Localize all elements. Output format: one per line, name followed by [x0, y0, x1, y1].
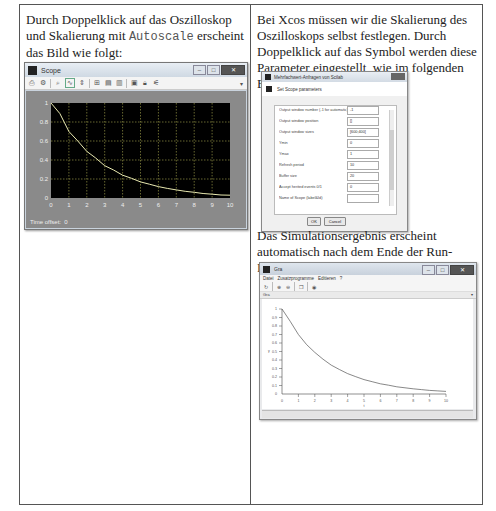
svg-text:0: 0	[45, 195, 49, 201]
herited-events-input[interactable]: 0	[347, 183, 379, 192]
ok-button[interactable]: OK	[307, 217, 321, 226]
left-paragraph: Durch Doppelklick auf das Oszilloskop un…	[26, 12, 246, 61]
params-icon[interactable]: ⚙	[39, 79, 47, 87]
svg-text:9: 9	[429, 399, 431, 403]
close-icon[interactable]: ✕	[221, 65, 245, 75]
dialog-header-text: Set Scope parameters	[277, 87, 322, 92]
field-row: Name of Scope (label&Id)	[279, 194, 387, 202]
graphic-window: Gra – □ ✕ Datei Zusatzprogramme Editiere…	[259, 262, 477, 420]
zoom-icon[interactable]: ⌕	[54, 79, 62, 87]
print-icon[interactable]: ⎙	[28, 79, 36, 87]
graphic-title: Gra	[274, 266, 282, 272]
maximize-icon[interactable]: □	[207, 65, 220, 75]
svg-text:4: 4	[347, 399, 349, 403]
graphic-menubar: Datei Zusatzprogramme Editieren ?	[260, 275, 476, 282]
toolbar-overflow-icon[interactable]: ▾	[240, 80, 243, 87]
window-icon[interactable]: ❐	[298, 284, 304, 290]
dialog-scrollbar[interactable]	[389, 110, 394, 206]
legend-icon[interactable]: ⚟	[152, 79, 160, 87]
svg-text:2: 2	[314, 399, 316, 403]
svg-text:3: 3	[103, 202, 107, 208]
dialog-header: Set Scope parameters	[262, 82, 407, 96]
ymax-input[interactable]: 1	[347, 150, 379, 159]
window-position-input[interactable]: []	[347, 117, 379, 126]
svg-text:3: 3	[330, 399, 332, 403]
window-number-input[interactable]: -1	[347, 106, 379, 115]
svg-text:4: 4	[121, 202, 125, 208]
scope-titlebar[interactable]: Scope – □ ✕	[25, 63, 247, 77]
save-icon[interactable]: ▣	[130, 79, 138, 87]
svg-text:0.9: 0.9	[272, 316, 277, 320]
zoom-box-icon[interactable]: ⊞	[93, 79, 101, 87]
svg-text:0.8: 0.8	[272, 324, 277, 328]
column-divider	[250, 4, 251, 504]
chevron-down-icon[interactable]: ▾	[471, 292, 473, 298]
menu-help[interactable]: ?	[340, 276, 343, 281]
svg-text:0.4: 0.4	[40, 157, 49, 163]
menu-zusatzprogramme[interactable]: Zusatzprogramme	[278, 276, 315, 281]
svg-text:0.7: 0.7	[272, 333, 277, 337]
zoom-y-icon[interactable]: ▥	[115, 79, 123, 87]
svg-text:10: 10	[227, 202, 234, 208]
zoom-in-icon[interactable]: ⊕	[276, 284, 282, 290]
svg-text:y: y	[268, 349, 270, 353]
graphic-titlebar[interactable]: Gra – □ ✕	[260, 263, 476, 275]
dialog-fields: Output window number (-1 for automatic)-…	[274, 105, 397, 215]
graphic-chart: 10.90.8 0.70.60.5 0.40.30.2 0.10 y 012 3…	[262, 299, 473, 409]
autoscale-code: Autoscale	[129, 30, 194, 44]
cancel-button[interactable]: Cancel	[324, 217, 346, 226]
svg-text:1: 1	[67, 202, 71, 208]
minimize-icon[interactable]: –	[193, 65, 206, 75]
svg-text:6: 6	[157, 202, 161, 208]
scilab-icon	[263, 266, 270, 273]
datatip-icon[interactable]: ◉	[311, 284, 317, 290]
close-icon[interactable]: ✕	[450, 265, 474, 275]
field-row: Accept herited events 0/10	[279, 183, 387, 191]
svg-text:0.4: 0.4	[272, 358, 277, 362]
menu-editieren[interactable]: Editieren	[318, 276, 336, 281]
svg-text:6: 6	[379, 399, 381, 403]
autoscale-icon[interactable]: ∿	[65, 78, 75, 88]
scope-plot-area: 10.80.6 0.40.20 012 345 678 910 Time off…	[26, 91, 246, 228]
scope-window: Scope – □ ✕ ⎙ ⚙ ⌕ ∿ ⇕ ⊞ ▤ ▥ ▣ 🔒︎ ⚟ ▾	[24, 62, 248, 230]
window-sizes-input[interactable]: [600;400]	[347, 128, 379, 137]
zoom-out-icon[interactable]: ⊖	[285, 284, 291, 290]
cursor-icon[interactable]: ⇕	[78, 79, 86, 87]
buffer-size-input[interactable]: 20	[347, 172, 379, 181]
svg-text:1: 1	[275, 307, 277, 311]
close-icon[interactable]	[391, 73, 405, 80]
lock-icon[interactable]: 🔒︎	[141, 79, 149, 87]
scilab-icon	[265, 74, 271, 80]
svg-text:9: 9	[210, 202, 214, 208]
field-row: Buffer size20	[279, 172, 387, 180]
graphic-statusbar	[262, 410, 473, 418]
minimize-icon[interactable]: –	[422, 265, 435, 275]
scope-title: Scope	[41, 67, 61, 74]
svg-text:0.5: 0.5	[272, 350, 277, 354]
menu-datei[interactable]: Datei	[263, 276, 274, 281]
svg-text:1: 1	[297, 399, 299, 403]
time-offset-value: 0	[64, 219, 67, 225]
axes-selector[interactable]: Gra ▾	[260, 292, 476, 299]
scilab-icon	[266, 86, 272, 92]
svg-text:0.6: 0.6	[272, 341, 277, 345]
field-row: Ymin0	[279, 139, 387, 147]
zoom-x-icon[interactable]: ▤	[104, 79, 112, 87]
svg-text:0: 0	[275, 392, 277, 396]
svg-text:7: 7	[175, 202, 179, 208]
dialog-titlebar[interactable]: Mehrfachwert-Anfragen von Scilab	[262, 72, 407, 82]
svg-text:10: 10	[444, 399, 448, 403]
svg-text:0.2: 0.2	[272, 375, 277, 379]
maximize-icon[interactable]: □	[436, 265, 449, 275]
ymin-input[interactable]: 0	[347, 139, 379, 148]
refresh-period-input[interactable]: 10	[347, 161, 379, 170]
svg-text:8: 8	[412, 399, 414, 403]
field-row: Output window position[]	[279, 117, 387, 125]
svg-text:5: 5	[139, 202, 143, 208]
svg-text:7: 7	[396, 399, 398, 403]
scope-name-input[interactable]	[347, 194, 379, 203]
rotate-icon[interactable]: ↻	[263, 284, 269, 290]
svg-text:0.6: 0.6	[40, 138, 49, 144]
svg-text:0.1: 0.1	[272, 384, 277, 388]
svg-text:0: 0	[281, 399, 283, 403]
